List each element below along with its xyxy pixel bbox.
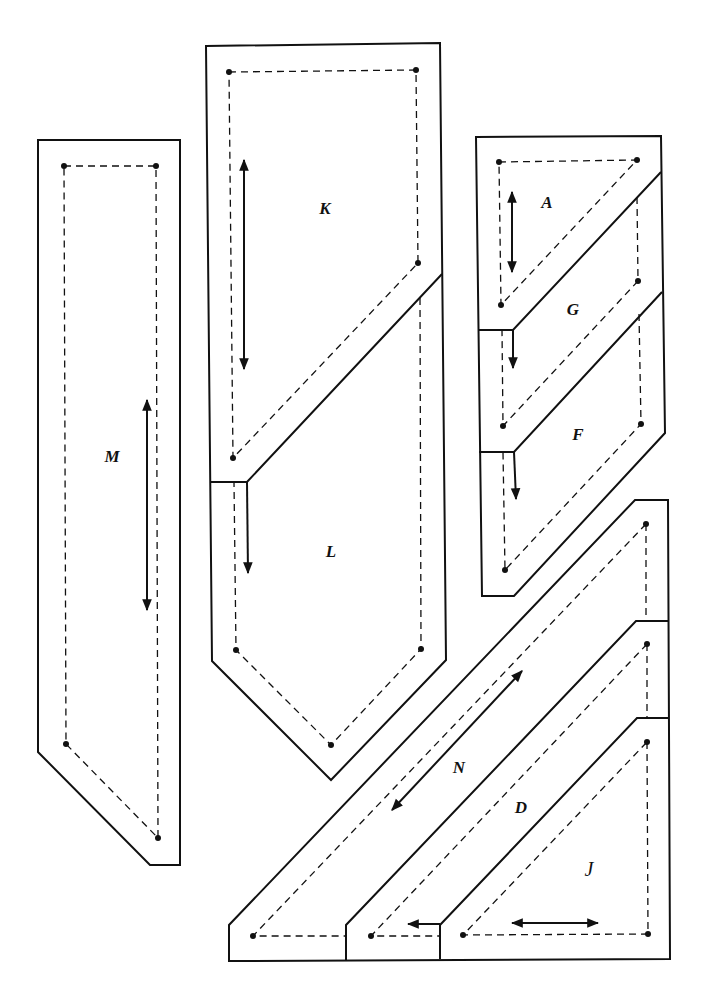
piece-label-a: A — [541, 194, 552, 211]
piece-label-m: M — [104, 448, 119, 465]
piece-label-j: J — [585, 859, 594, 879]
piece-label-d: D — [515, 799, 527, 816]
piece-d-seam-line — [371, 644, 647, 936]
piece-l-grainline-arrow-icon — [247, 482, 248, 573]
piece-kl-cut-line — [206, 43, 446, 780]
piece-label-g: G — [567, 301, 579, 318]
piece-n-d-j — [229, 500, 670, 961]
piece-a-g-f — [476, 136, 665, 596]
piece-label-f: F — [572, 426, 583, 443]
pattern-pieces-diagram — [0, 0, 710, 1000]
piece-k-l — [206, 43, 446, 780]
piece-a-seam-line — [499, 160, 637, 305]
piece-label-n: N — [453, 759, 465, 776]
piece-label-l: L — [326, 543, 336, 560]
piece-label-k: K — [319, 200, 330, 217]
piece-n-d-divider — [346, 621, 668, 960]
piece-n-grainline-arrow-icon — [392, 671, 522, 810]
piece-m-seam-line — [64, 166, 158, 838]
piece-j-seam-line — [463, 742, 648, 935]
piece-m — [38, 140, 180, 865]
piece-k-l-divider — [211, 274, 442, 482]
piece-l-seam-line — [234, 298, 421, 745]
piece-f-grainline-arrow-icon — [514, 452, 516, 499]
piece-m-cut-line — [38, 140, 180, 865]
